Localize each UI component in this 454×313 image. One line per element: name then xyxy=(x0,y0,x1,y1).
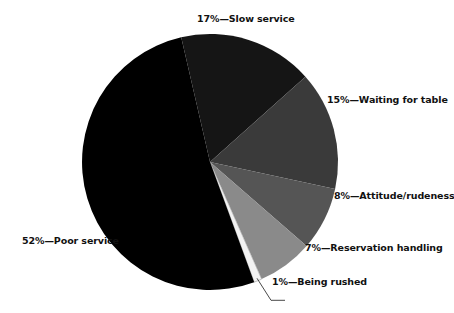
pie-chart-canvas xyxy=(0,0,454,313)
pie-label-reservation-handling: 7%—Reservation handling xyxy=(305,243,443,253)
pie-label-being-rushed: 1%—Being rushed xyxy=(272,277,367,287)
pie-label-waiting-for-table: 15%—Waiting for table xyxy=(327,95,448,105)
pie-label-slow-service: 17%—Slow service xyxy=(197,14,295,24)
pie-label-attitude-rudeness: 8%—Attitude/rudeness xyxy=(334,191,454,201)
pie-chart-figure: 17%—Slow service 15%—Waiting for table 8… xyxy=(0,0,454,313)
pie-slice-group xyxy=(82,34,338,290)
pie-label-poor-service: 52%—Poor service xyxy=(22,236,119,246)
